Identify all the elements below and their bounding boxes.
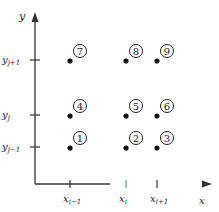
node-number: 3 xyxy=(164,133,170,144)
grid-point xyxy=(123,145,128,150)
grid-point xyxy=(154,145,159,150)
node-number: 4 xyxy=(77,101,83,112)
node-number: 6 xyxy=(164,101,170,112)
node-number: 7 xyxy=(77,46,83,57)
x-axis-arrow-icon xyxy=(202,181,212,188)
y-tick-label: yj−1 xyxy=(1,141,20,154)
grid-point xyxy=(123,58,128,63)
x-tick-label: xi−1 xyxy=(63,193,81,206)
grid-point xyxy=(67,113,72,118)
grid-point xyxy=(154,113,159,118)
y-axis-label: y xyxy=(18,10,26,23)
y-axis-arrow-icon xyxy=(32,12,39,22)
grid-diagram: y x xi−1xixi+1yj+1yjyj−1 123456789 xyxy=(0,0,219,212)
node-number: 2 xyxy=(133,133,139,144)
node-number: 8 xyxy=(133,46,139,57)
node-number: 5 xyxy=(133,101,139,112)
x-tick-label: xi xyxy=(119,193,127,206)
y-tick-label: yj xyxy=(1,109,11,122)
x-tick-label: xi+1 xyxy=(150,193,168,206)
node-number: 9 xyxy=(164,46,170,57)
grid-point xyxy=(67,58,72,63)
y-tick-label: yj+1 xyxy=(1,54,20,67)
node-number: 1 xyxy=(77,133,83,144)
grid-point xyxy=(67,145,72,150)
grid-point xyxy=(123,113,128,118)
x-axis-label: x xyxy=(199,195,205,206)
grid-point xyxy=(154,58,159,63)
